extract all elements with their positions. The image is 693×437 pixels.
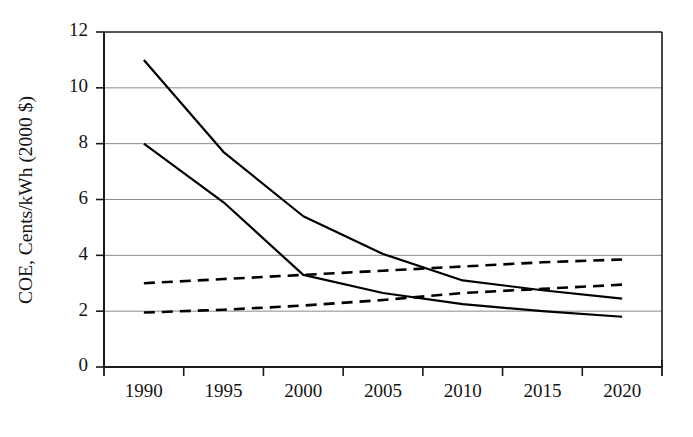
x-tick-label: 2015	[523, 380, 561, 401]
y-tick-label: 0	[79, 354, 89, 375]
y-tick-label: 4	[79, 243, 89, 264]
y-axis-title: COE, Cents/kWh (2000 $)	[15, 96, 37, 304]
y-tick-label: 10	[69, 75, 88, 96]
x-tick-label: 2010	[444, 380, 482, 401]
x-tick-label: 2000	[284, 380, 322, 401]
x-tick-label: 1995	[205, 380, 243, 401]
y-tick-label: 12	[69, 19, 88, 40]
y-tick-label: 2	[79, 299, 89, 320]
x-tick-label: 2020	[603, 380, 641, 401]
x-tick-label: 1990	[125, 380, 163, 401]
y-tick-label: 8	[79, 131, 89, 152]
y-tick-label: 6	[79, 187, 89, 208]
x-tick-label: 2005	[364, 380, 402, 401]
line-chart: 024681012 1990199520002005201020152020 C…	[0, 0, 693, 437]
chart-container: 024681012 1990199520002005201020152020 C…	[0, 0, 693, 437]
